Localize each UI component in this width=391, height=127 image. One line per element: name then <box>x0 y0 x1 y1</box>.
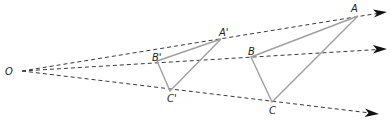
arrowheads <box>365 10 388 118</box>
label-c-prime: C' <box>167 93 177 104</box>
ray-through-a <box>22 13 378 71</box>
label-c: C <box>269 105 276 116</box>
triangle-abc <box>251 16 358 102</box>
label-b: B <box>248 46 255 57</box>
ray-through-c <box>22 71 370 113</box>
arrowhead-icon <box>365 109 380 118</box>
label-a-prime: A' <box>218 27 229 38</box>
label-o: O <box>5 66 13 77</box>
dilation-diagram: O A B C A' B' C' <box>0 0 391 127</box>
label-a: A <box>350 3 358 14</box>
label-b-prime: B' <box>152 52 162 63</box>
triangle-a-prime-b-prime-c-prime <box>157 39 221 91</box>
